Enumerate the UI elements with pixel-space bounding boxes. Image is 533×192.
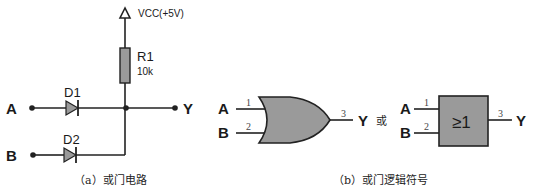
gate1-pin-3: 3	[341, 108, 346, 119]
junction-node	[123, 105, 129, 111]
or-gate-circuit: VCC(+5V) R1 10k A D1 Y B D2 （a）或门电路	[6, 8, 193, 187]
or-gate-diagram: VCC(+5V) R1 10k A D1 Y B D2 （a）或门电路	[0, 0, 533, 192]
diode-d1-label: D1	[64, 85, 81, 100]
output-y-label: Y	[183, 100, 193, 117]
vcc-power-icon	[120, 8, 130, 18]
or-gate-icon	[259, 97, 330, 143]
diode-d2-label: D2	[63, 132, 80, 147]
gate2-function-label: ≥1	[452, 113, 471, 132]
caption-b: （b）或门逻辑符号	[333, 173, 428, 187]
resistor-name: R1	[137, 49, 154, 64]
gate2-pin-2: 2	[424, 121, 429, 132]
diode-d1-icon	[66, 100, 78, 116]
diode-d2-icon	[64, 147, 76, 163]
resistor-value: 10k	[137, 66, 154, 77]
gate2-input-a-label: A	[400, 100, 411, 117]
vcc-label: VCC(+5V)	[138, 8, 184, 19]
gate1-input-a-label: A	[218, 100, 229, 117]
input-b-label: B	[6, 147, 17, 164]
or-gate-iec-symbol: A B 1 2 ≥1 3 Y	[400, 96, 526, 146]
gate2-output-y-label: Y	[516, 112, 526, 129]
output-terminal	[172, 105, 178, 111]
gate2-input-b-label: B	[400, 124, 411, 141]
or-connector-text: 或	[376, 115, 387, 128]
gate1-output-y-label: Y	[358, 112, 368, 129]
gate2-pin-1: 1	[424, 97, 429, 108]
input-a-label: A	[6, 100, 17, 117]
caption-a: （a）或门电路	[74, 173, 147, 187]
gate1-pin-2: 2	[246, 121, 251, 132]
or-gate-distinctive-symbol: A B 1 2 3 Y	[218, 97, 368, 143]
gate1-pin-1: 1	[246, 97, 251, 108]
gate1-input-b-label: B	[218, 124, 229, 141]
gate2-pin-3: 3	[498, 108, 503, 119]
resistor-r1-icon	[120, 48, 130, 83]
